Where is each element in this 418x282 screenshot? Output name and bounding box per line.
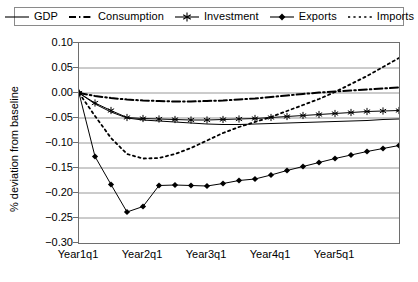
- plot-svg: [79, 43, 399, 243]
- line-asterisk-swatch: [174, 12, 200, 22]
- legend-item-investment: Investment: [169, 11, 264, 22]
- legend-label-consumption: Consumption: [98, 11, 164, 22]
- data-point-marker: [332, 155, 338, 161]
- data-point-marker: [92, 153, 98, 159]
- data-point-marker: [268, 172, 274, 178]
- data-point-marker: [348, 152, 354, 158]
- line-dashdot-swatch: [68, 12, 94, 22]
- y-axis-tick-label: −0.15: [45, 162, 73, 173]
- data-point-marker: [300, 163, 306, 169]
- data-point-marker: [252, 176, 258, 182]
- x-axis-tick-label: Year3q1: [186, 249, 227, 260]
- legend-item-imports: Imports: [342, 11, 418, 22]
- y-axis-tick-label: 0.00: [52, 87, 73, 98]
- legend-item-consumption: Consumption: [63, 11, 169, 22]
- chart-legend: GDP Consumption Investment: [14, 7, 404, 26]
- data-point-marker: [316, 159, 322, 165]
- legend-item-exports: Exports: [264, 11, 342, 22]
- y-axis-tick-label: 0.10: [52, 37, 73, 48]
- legend-label-exports: Exports: [299, 11, 337, 22]
- data-point-marker: [124, 209, 130, 215]
- x-axis-tick-labels: Year1q1Year2q1Year3q1Year4q1Year5q1: [78, 249, 400, 265]
- legend-label-investment: Investment: [204, 11, 259, 22]
- data-point-marker: [188, 182, 194, 188]
- x-axis-tick-label: Year1q1: [58, 249, 99, 260]
- data-point-marker: [204, 183, 210, 189]
- y-axis-tick-labels: 0.100.050.00−0.05−0.10−0.15−0.20−0.25−0.…: [0, 42, 73, 244]
- line-dotted-swatch: [347, 12, 373, 22]
- legend-label-imports: Imports: [377, 11, 414, 22]
- y-axis-tick-label: −0.05: [45, 112, 73, 123]
- y-axis-tick-label: −0.25: [45, 212, 73, 223]
- line-diamond-swatch: [269, 12, 295, 22]
- chart-container: GDP Consumption Investment: [0, 0, 418, 282]
- y-axis-tick-label: −0.10: [45, 137, 73, 148]
- data-point-marker: [364, 148, 370, 154]
- x-axis-tick-label: Year4q1: [250, 249, 291, 260]
- x-axis-tick-label: Year5q1: [314, 249, 355, 260]
- plot-area: [78, 42, 400, 244]
- data-point-marker: [108, 181, 114, 187]
- data-point-marker: [172, 182, 178, 188]
- data-point-marker: [236, 177, 242, 183]
- series-line-consumption: [79, 88, 399, 102]
- x-axis-tick-label: Year2q1: [122, 249, 163, 260]
- data-point-marker: [380, 145, 386, 151]
- data-point-marker: [220, 180, 226, 186]
- y-axis-tick-label: −0.30: [45, 237, 73, 248]
- legend-label-gdp: GDP: [34, 11, 58, 22]
- y-axis-tick-label: 0.05: [52, 62, 73, 73]
- y-axis-tick-label: −0.20: [45, 187, 73, 198]
